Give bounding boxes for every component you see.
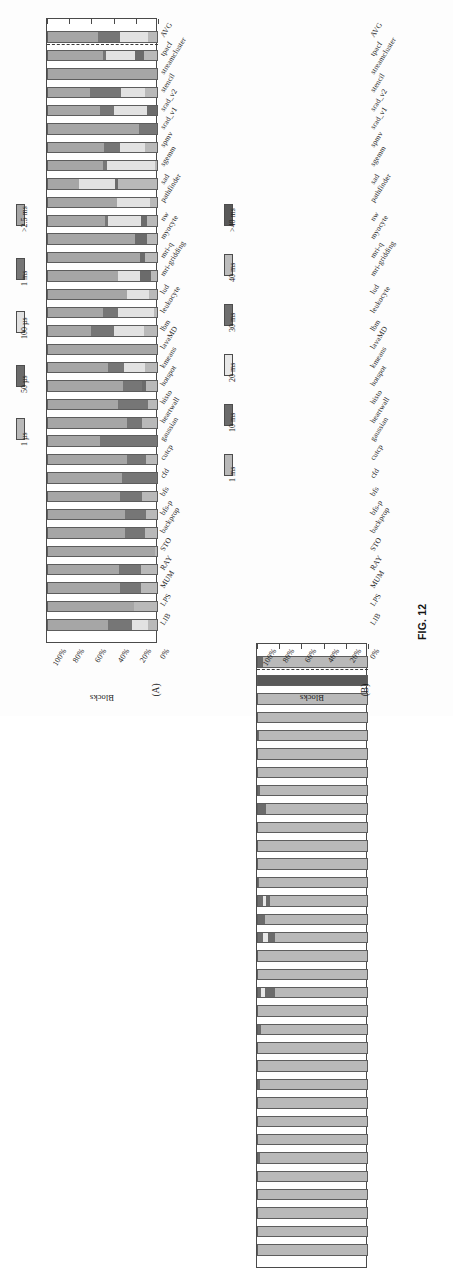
bar-segment: [47, 380, 122, 391]
bar-segment: [146, 380, 158, 391]
bar-row: [257, 1024, 368, 1035]
panel-label-a: (A): [151, 683, 161, 696]
axis-tick: [324, 644, 325, 649]
legend-label: 20 ms: [228, 363, 237, 382]
bar-segment: [47, 233, 135, 244]
bar-row: [47, 325, 158, 336]
bar-segment: [127, 454, 146, 465]
bar-segment: [144, 325, 158, 336]
bar-row: [47, 380, 158, 391]
bar-segment: [47, 564, 119, 575]
bar-segment: [47, 619, 108, 630]
bar-segment: [260, 1079, 368, 1090]
bar-row: [257, 914, 368, 925]
axis-tick: [114, 19, 115, 24]
bar-segment: [258, 822, 368, 833]
bar-segment: [47, 178, 79, 189]
bar-segment: [135, 50, 144, 61]
bar-segment: [146, 509, 158, 520]
bar-row: [47, 270, 158, 281]
bar-segment: [120, 31, 148, 42]
percent-tick-label: 100%: [51, 647, 69, 668]
bar-row: [257, 767, 368, 778]
bar-row: [257, 1060, 368, 1071]
category-label: sgemm: [368, 144, 388, 168]
bar-row: [257, 1244, 368, 1255]
bar-row: [47, 160, 158, 171]
percent-tick-label: 0%: [158, 647, 171, 661]
bar-segment: [257, 858, 368, 869]
bar-segment: [266, 803, 368, 814]
bar-segment: [47, 454, 127, 465]
bar-segment: [145, 142, 158, 153]
bar-segment: [257, 1226, 368, 1237]
bar-row: [257, 803, 368, 814]
bar-segment: [151, 270, 158, 281]
bar-row: [257, 675, 368, 686]
bar-segment: [47, 123, 139, 134]
axis-tick: [69, 19, 70, 24]
bar-segment: [120, 582, 141, 593]
bar-segment: [257, 969, 368, 980]
bar-row: [257, 730, 368, 741]
axis-tick: [368, 644, 369, 649]
bar-segment: [270, 895, 368, 906]
axis-tick: [346, 644, 347, 649]
bar-segment: [257, 803, 266, 814]
bar-row: [47, 289, 158, 300]
y-axis-title: Blocks: [90, 693, 114, 703]
bar-segment: [47, 87, 90, 98]
bar-row: [257, 1152, 368, 1163]
bar-segment: [118, 270, 140, 281]
avg-separator-line: [257, 669, 368, 670]
bar-segment: [47, 68, 158, 79]
bar-segment: [47, 546, 155, 557]
bar-segment: [265, 914, 368, 925]
category-label: MUM: [368, 569, 386, 590]
bar-segment: [90, 87, 121, 98]
bar-segment: [275, 932, 368, 943]
bar-segment: [132, 619, 148, 630]
category-label: RAY: [368, 554, 384, 572]
bar-segment: [139, 123, 158, 134]
legend-label: 1 µs: [20, 433, 29, 447]
legend-label: 50 µs: [20, 375, 29, 393]
bar-segment: [147, 105, 158, 116]
bar-segment: [134, 601, 158, 612]
bar-segment: [141, 582, 158, 593]
bar-segment: [257, 1171, 368, 1182]
axis-tick: [158, 19, 159, 24]
bar-segment: [265, 987, 275, 998]
bar-segment: [147, 233, 158, 244]
plot-area-panel-a: [46, 18, 157, 643]
bar-segment: [114, 105, 147, 116]
bar-segment: [47, 344, 158, 355]
category-label: AVG: [158, 21, 174, 39]
bar-row: [257, 1189, 368, 1200]
bar-segment: [145, 252, 158, 263]
bar-row: [47, 87, 158, 98]
bar-row: [257, 1207, 368, 1218]
bar-segment: [47, 142, 104, 153]
bar-segment: [257, 1134, 368, 1145]
bar-segment: [47, 509, 125, 520]
bar-segment: [118, 307, 154, 318]
bar-row: [257, 1134, 368, 1145]
bar-segment: [257, 840, 368, 851]
bar-segment: [47, 601, 134, 612]
percent-tick-label: 60%: [93, 647, 108, 664]
bar-segment: [144, 50, 158, 61]
bar-segment: [47, 31, 98, 42]
legend-label: 100 µs: [20, 317, 29, 339]
bar-segment: [150, 197, 158, 208]
bar-row: [47, 472, 158, 483]
bar-segment: [106, 50, 135, 61]
bar-row: [257, 1226, 368, 1237]
bar-row: [47, 233, 158, 244]
bar-row: [47, 68, 158, 79]
bar-segment: [268, 932, 275, 943]
bar-row: [257, 748, 368, 759]
bar-row: [47, 417, 158, 428]
category-label: cutcp: [158, 442, 175, 461]
axis-tick: [47, 19, 48, 24]
